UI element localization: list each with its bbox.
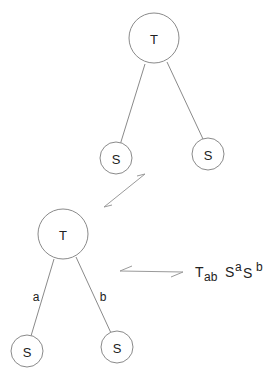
- top-left-child-node: S: [100, 142, 132, 174]
- formula-s1-superscript: a: [235, 260, 242, 274]
- top-root-node: T: [129, 13, 179, 63]
- formula-base: T: [195, 264, 204, 280]
- top-edge-right: [167, 62, 203, 139]
- bottom-right-child-label: S: [113, 341, 122, 356]
- formula-s1: S: [225, 264, 234, 280]
- top-right-child-label: S: [204, 148, 213, 163]
- bottom-root-label: T: [59, 228, 67, 243]
- formula: T ab S a S b: [195, 260, 263, 284]
- edge-label-a: a: [33, 290, 40, 304]
- formula-base-subscript: ab: [204, 270, 218, 284]
- equivalence-arrow-diagonal: [104, 174, 145, 207]
- bottom-left-child-node: S: [11, 335, 43, 367]
- tree-diagram: T S S a b T S S T ab S a S: [0, 0, 277, 377]
- bottom-left-child-label: S: [23, 345, 32, 360]
- edge-label-b: b: [100, 290, 107, 304]
- equivalence-arrow-horizontal: [120, 266, 183, 277]
- formula-s2: S: [243, 265, 252, 281]
- formula-s2-superscript: b: [256, 260, 263, 274]
- top-left-child-label: S: [112, 152, 121, 167]
- bottom-right-child-node: S: [101, 331, 133, 363]
- top-root-label: T: [150, 32, 158, 47]
- top-right-child-node: S: [192, 138, 224, 170]
- bottom-root-node: T: [38, 209, 88, 259]
- top-edge-left: [120, 64, 145, 145]
